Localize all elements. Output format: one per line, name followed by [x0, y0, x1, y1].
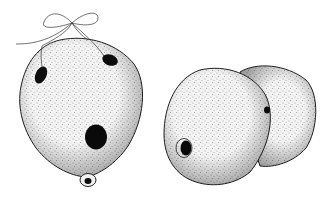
illustration-canvas	[0, 0, 334, 203]
ocarina-illustration	[0, 0, 334, 203]
gourd-ocarina-front	[16, 13, 143, 186]
center-hole	[85, 125, 107, 150]
double-gourd-ocarina	[164, 66, 316, 185]
small-hole	[264, 107, 270, 114]
mouthpiece-nub	[80, 174, 96, 187]
side-hole	[181, 141, 192, 156]
